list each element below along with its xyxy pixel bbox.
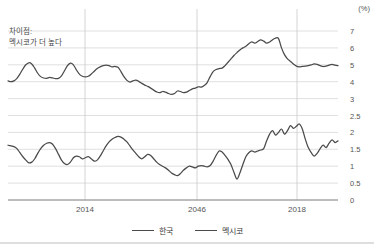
y-tick-5: 5 [350,60,370,69]
y-tick-6: 6 [350,43,370,52]
chart-container: 차이점: 멕시코가 더 높다 (%) 765432.521.510.50 201… [0,0,374,246]
chart-legend: 한국멕시코 [0,225,374,236]
y-tick-2-5: 2.5 [350,111,370,120]
x-tick-2018: 2018 [288,205,306,214]
y-tick-1-5: 1.5 [350,145,370,154]
y-tick-7: 7 [350,27,370,36]
y-tick-3: 3 [350,94,370,103]
annotation-line-1: 차이점: [9,26,62,37]
horizontal-gridlines [8,31,338,200]
y-tick-4: 4 [350,77,370,86]
vertical-gridlines [85,9,297,200]
chart-annotation: 차이점: 멕시코가 더 높다 [9,26,62,48]
y-tick-0: 0 [350,196,370,205]
y-tick-0-5: 0.5 [350,179,370,188]
x-tick-2014: 2014 [76,205,94,214]
legend-label: 한국 [159,225,173,236]
legend-line-icon [132,230,154,231]
legend-line-icon [195,230,217,231]
x-tick-2046: 2046 [188,205,206,214]
y-axis-unit-label: (%) [358,4,370,13]
y-tick-2: 2 [350,128,370,137]
annotation-line-2: 멕시코가 더 높다 [9,37,62,48]
legend-label: 멕시코 [222,225,243,236]
legend-item-mexico[interactable]: 멕시코 [195,225,243,236]
legend-item-korea[interactable]: 한국 [132,225,173,236]
y-tick-1: 1 [350,162,370,171]
series-lines [8,38,338,179]
